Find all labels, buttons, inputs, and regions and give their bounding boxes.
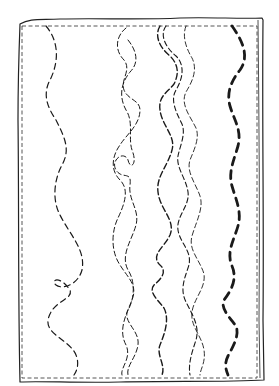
line-2 [113,28,140,375]
line-7 [223,26,245,375]
inner-stitch-border [22,26,257,378]
illustration-canvas [0,0,279,386]
wavy-lines-group [46,26,245,375]
line-1 [46,26,83,375]
outer-frame-double [258,20,260,378]
line-5 [163,26,197,375]
line-4 [152,26,177,375]
line-3 [115,40,139,375]
